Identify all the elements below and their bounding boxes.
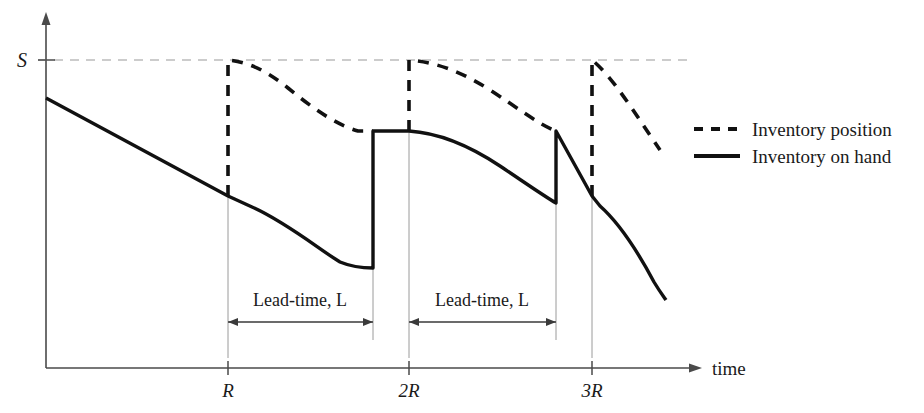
series-inventory-position-cycle2 (409, 60, 556, 131)
inventory-policy-figure: S R 2R 3R time Lead-time, L Lead-time, L… (0, 0, 924, 413)
lead-time-2-label: Lead-time, L (435, 290, 529, 310)
x-axis-arrowhead (689, 364, 702, 373)
lead-time-2-arrowhead-right (546, 318, 556, 326)
x-axis-tick-label-2R: 2R (398, 380, 420, 401)
lead-time-1-arrowhead-right (363, 318, 373, 326)
series-inventory-on-hand (46, 98, 666, 300)
y-axis-arrowhead (42, 12, 51, 25)
lead-time-1-arrowhead-left (228, 318, 238, 326)
x-axis-tick-label-3R: 3R (580, 380, 603, 401)
legend-label-inventory-on-hand: Inventory on hand (752, 146, 892, 167)
x-axis-tick-label-R: R (221, 380, 234, 401)
inventory-chart-svg: S R 2R 3R time Lead-time, L Lead-time, L… (0, 0, 924, 413)
x-axis-label: time (712, 358, 746, 379)
series-inventory-position-cycle3 (592, 60, 660, 196)
lead-time-1-label: Lead-time, L (253, 290, 347, 310)
legend: Inventory position Inventory on hand (694, 119, 892, 167)
y-axis-level-label: S (17, 49, 27, 71)
legend-label-inventory-position: Inventory position (752, 119, 892, 140)
lead-time-2-arrowhead-left (409, 318, 419, 326)
series-inventory-position-cycle1 (228, 60, 373, 196)
